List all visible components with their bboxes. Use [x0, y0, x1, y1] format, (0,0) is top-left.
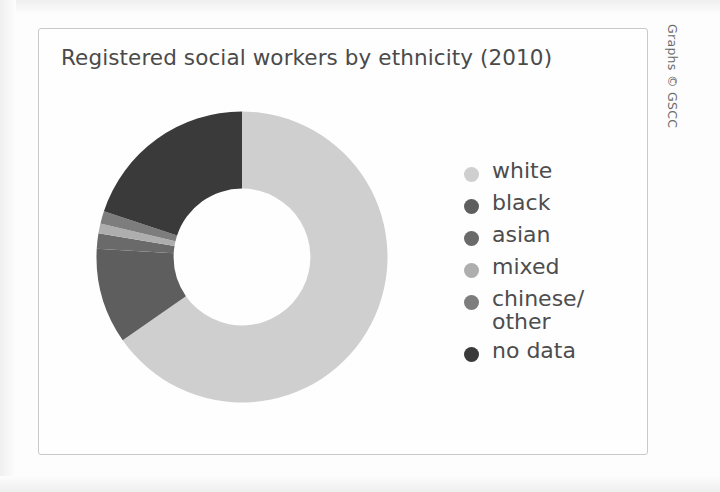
legend-label-asian: asian	[492, 224, 550, 247]
chart-frame: Registered social workers by ethnicity (…	[38, 28, 648, 455]
donut-chart-svg	[96, 111, 388, 403]
legend-label-mixed: mixed	[492, 256, 559, 279]
credit-block: Graphs © GSCC	[664, 24, 684, 224]
legend-item-black[interactable]: black	[464, 192, 634, 218]
legend-label-no-data: no data	[492, 340, 576, 363]
legend-item-mixed[interactable]: mixed	[464, 256, 634, 282]
chart-title: Registered social workers by ethnicity (…	[61, 45, 552, 70]
donut-slice-group	[96, 112, 387, 403]
legend-swatch-black	[464, 199, 479, 214]
page-left-edge	[0, 0, 16, 492]
legend-swatch-mixed	[464, 263, 479, 278]
legend-swatch-no-data	[464, 347, 479, 362]
legend-swatch-asian	[464, 231, 479, 246]
donut-slice-no-data[interactable]	[104, 112, 242, 236]
legend-label-black: black	[492, 192, 550, 215]
page-top-edge	[0, 0, 720, 14]
legend-label-white: white	[492, 160, 552, 183]
page-bottom-edge	[0, 476, 720, 492]
legend-item-chinese-other[interactable]: chinese/ other	[464, 288, 634, 334]
donut-chart	[96, 111, 388, 403]
legend-swatch-chinese-other	[464, 295, 479, 310]
legend-item-no-data[interactable]: no data	[464, 340, 634, 366]
legend-item-asian[interactable]: asian	[464, 224, 634, 250]
legend-item-white[interactable]: white	[464, 160, 634, 186]
scanned-page: Registered social workers by ethnicity (…	[0, 0, 720, 492]
legend-label-chinese-other: chinese/ other	[492, 288, 584, 334]
legend: white black asian mixed chinese/ other n	[464, 160, 634, 372]
legend-swatch-white	[464, 167, 479, 182]
credit-text: Graphs © GSCC	[665, 24, 680, 128]
